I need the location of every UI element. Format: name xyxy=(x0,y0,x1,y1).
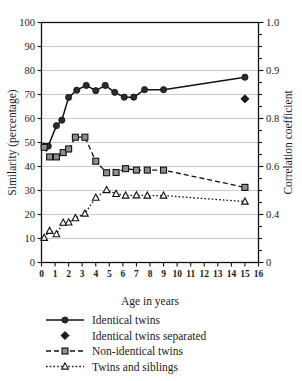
datapoint-2-4 xyxy=(66,146,72,152)
y2-tick-label-0.6: 0.6 xyxy=(266,161,279,172)
y-tick-label-90: 90 xyxy=(25,41,36,52)
y2-tick-label-1.0: 1.0 xyxy=(266,17,279,28)
datapoint-2-11 xyxy=(133,167,139,173)
x-tick-label-9: 9 xyxy=(161,269,166,279)
y2-tick-label-0: 0 xyxy=(266,257,271,268)
y-tick-label-40: 40 xyxy=(25,161,36,172)
datapoint-0-11 xyxy=(131,94,137,100)
datapoint-2-14 xyxy=(242,184,248,190)
datapoint-2-13 xyxy=(161,167,167,173)
y-tick-label-30: 30 xyxy=(25,185,36,196)
legend-label-0: Identical twins xyxy=(92,314,161,326)
datapoint-2-8 xyxy=(104,170,110,176)
datapoint-0-9 xyxy=(112,89,118,95)
datapoint-2-12 xyxy=(144,167,150,173)
x-tick-label-4: 4 xyxy=(93,269,98,279)
y2-tick-label-0.9: 0.9 xyxy=(266,65,279,76)
datapoint-2-10 xyxy=(123,166,129,172)
legend-label-2: Non-identical twins xyxy=(92,345,184,357)
y-tick-label-80: 80 xyxy=(25,65,36,76)
datapoint-0-6 xyxy=(83,82,89,88)
x-tick-label-16: 16 xyxy=(254,269,264,279)
x-tick-label-2: 2 xyxy=(66,269,71,279)
datapoint-2-0 xyxy=(41,144,47,150)
x-tick-label-12: 12 xyxy=(200,269,210,279)
x-tick-label-13: 13 xyxy=(213,269,223,279)
y-tick-label-0: 0 xyxy=(30,257,35,268)
similarity-vs-age-chart: 0102030405060708090100 00.40.60.80.91.0 … xyxy=(0,0,302,381)
datapoint-0-13 xyxy=(160,87,166,93)
datapoint-0-12 xyxy=(141,87,147,93)
datapoint-2-5 xyxy=(72,134,78,140)
datapoint-2-2 xyxy=(53,154,59,160)
datapoint-0-3 xyxy=(59,117,65,123)
legend-marker-0 xyxy=(62,317,68,323)
x-tick-label-14: 14 xyxy=(227,269,237,279)
datapoint-0-4 xyxy=(66,94,72,100)
y-tick-label-20: 20 xyxy=(25,209,36,220)
x-tick-label-7: 7 xyxy=(134,269,139,279)
x-tick-label-1: 1 xyxy=(53,269,58,279)
x-tick-label-15: 15 xyxy=(240,269,250,279)
y-tick-label-50: 50 xyxy=(25,137,36,148)
datapoint-2-1 xyxy=(47,154,53,160)
x-axis-title: Age in years xyxy=(121,295,180,308)
legend-label-1: Identical twins separated xyxy=(92,330,207,343)
datapoint-2-9 xyxy=(113,170,119,176)
datapoint-2-6 xyxy=(82,134,88,140)
x-tick-label-8: 8 xyxy=(148,269,153,279)
datapoint-0-2 xyxy=(53,123,59,129)
x-tick-label-5: 5 xyxy=(107,269,112,279)
x-tick-label-10: 10 xyxy=(172,269,182,279)
figure: 0102030405060708090100 00.40.60.80.91.0 … xyxy=(0,0,302,381)
y2-tick-label-0.4: 0.4 xyxy=(266,209,280,220)
legend-label-3: Twins and siblings xyxy=(92,361,179,374)
datapoint-0-14 xyxy=(242,74,248,80)
y-tick-label-100: 100 xyxy=(19,17,35,28)
datapoint-2-7 xyxy=(93,158,99,164)
y2-axis-title: Correlation coefficient xyxy=(282,90,294,195)
y-axis-title: Similarity (percentage) xyxy=(6,89,19,196)
datapoint-0-10 xyxy=(121,94,127,100)
legend-marker-2 xyxy=(62,348,68,354)
y-tick-label-10: 10 xyxy=(25,233,36,244)
datapoint-0-5 xyxy=(74,87,80,93)
x-tick-label-6: 6 xyxy=(121,269,126,279)
x-tick-label-0: 0 xyxy=(39,269,44,279)
y2-tick-label-0.8: 0.8 xyxy=(266,113,279,124)
x-tick-label-11: 11 xyxy=(186,269,195,279)
x-tick-label-3: 3 xyxy=(80,269,85,279)
datapoint-0-7 xyxy=(93,88,99,94)
y-tick-label-60: 60 xyxy=(25,113,36,124)
datapoint-0-8 xyxy=(102,82,108,88)
y-tick-label-70: 70 xyxy=(25,89,36,100)
